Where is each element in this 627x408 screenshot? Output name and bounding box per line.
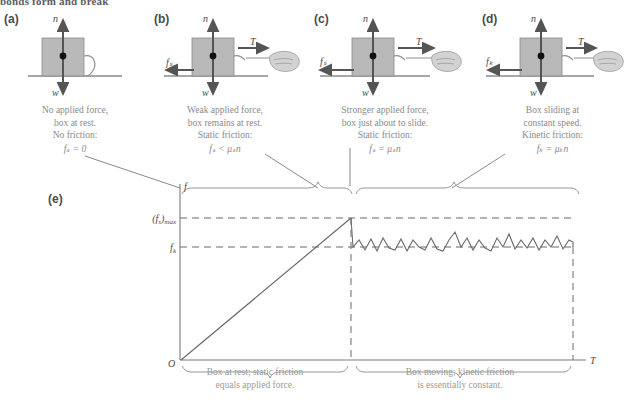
panel-b-caption-line-2: box remains at rest. — [188, 118, 262, 128]
kinetic-friction-curve — [351, 218, 573, 251]
graph-caption-right: Box moving; kinetic friction is essentia… — [345, 366, 575, 391]
top-brace-right — [356, 182, 579, 194]
rope-knot-b — [234, 55, 245, 60]
hand-icon-b — [270, 51, 300, 71]
center-dot-b — [210, 53, 217, 60]
friction-label-b: fₛ — [166, 57, 173, 68]
weight-label-a: w — [52, 87, 59, 98]
normal-label-d: n — [531, 13, 536, 24]
panel-b: (b) n w T fₛ Weak appli — [150, 8, 300, 168]
normal-label-c: n — [363, 13, 368, 24]
panel-a-equation: fₛ = 0 — [0, 143, 150, 156]
panel-d-caption-line-1: Box sliding at — [526, 105, 579, 115]
tension-label-c: T — [416, 36, 423, 47]
normal-label-b: n — [203, 13, 208, 24]
panel-c-label: (c) — [314, 12, 329, 26]
top-running-text: bonds form and break — [0, 0, 230, 7]
tension-label-d: T — [578, 36, 585, 47]
graph-caption-left-line-1: Box at rest; static friction — [207, 367, 304, 377]
rope-knot-d — [562, 55, 573, 60]
y-axis-label: f — [184, 181, 188, 192]
graph-caption-right-line-1: Box moving; kinetic friction — [406, 367, 514, 377]
panel-d-caption: Box sliding at constant speed. Kinetic f… — [478, 104, 627, 155]
rope-loop-a — [84, 56, 95, 76]
panel-a-caption-line-3: No friction: — [53, 130, 98, 140]
panel-a: (a) n w No applied force, box at r — [0, 8, 150, 168]
hand-icon-d — [594, 51, 624, 71]
normal-label-a: n — [53, 13, 58, 24]
y-tick-fk: fk — [170, 242, 177, 255]
panel-b-diagram: n w T fₛ — [150, 8, 310, 103]
panel-a-caption-line-2: box at rest. — [54, 118, 96, 128]
panel-a-label: (a) — [4, 12, 19, 26]
panel-c-caption-line-3: Static friction: — [358, 130, 413, 140]
top-brace-left — [182, 182, 352, 194]
panel-d-label: (d) — [482, 12, 497, 26]
weight-label-b: w — [202, 87, 209, 98]
friction-graph: (e) f T O (fs)max — [0, 168, 627, 408]
tension-label-b: T — [250, 36, 257, 47]
graph-caption-left: Box at rest; static friction equals appl… — [160, 366, 350, 391]
weight-label-d: w — [530, 87, 537, 98]
panel-d-equation: fₖ = μₖn — [478, 143, 627, 156]
friction-figure: bonds form and break (a) n w — [0, 0, 627, 408]
panel-b-label: (b) — [154, 12, 169, 26]
friction-label-c: fₛ — [320, 56, 327, 67]
center-dot-a — [60, 53, 67, 60]
panel-a-caption-line-1: No applied force, — [42, 105, 108, 115]
graph-caption-left-line-2: equals applied force. — [216, 380, 295, 390]
y-tick-fs-max: (fs)max — [152, 213, 177, 226]
panel-c-equation: fₛ = μₛn — [310, 143, 460, 156]
center-dot-d — [538, 53, 545, 60]
panel-c-caption-line-1: Stronger applied force, — [341, 105, 428, 115]
panel-e-label: (e) — [48, 192, 63, 206]
panel-d: (d) n w T fₖ Box sliding at constant spe… — [478, 8, 627, 168]
panel-a-caption: No applied force, box at rest. No fricti… — [0, 104, 150, 155]
panel-b-equation: fₛ < μₛn — [150, 143, 300, 156]
graph-caption-right-line-2: is essentially constant. — [417, 380, 502, 390]
x-axis-label: T — [590, 355, 597, 366]
panel-d-caption-line-3: Kinetic friction: — [522, 130, 583, 140]
panel-b-caption: Weak applied force, box remains at rest.… — [150, 104, 300, 155]
panel-c-caption-line-2: box just about to slide. — [342, 118, 428, 128]
panel-b-caption-line-1: Weak applied force, — [187, 105, 263, 115]
panel-b-caption-line-3: Static friction: — [198, 130, 253, 140]
panel-c-caption: Stronger applied force, box just about t… — [310, 104, 460, 155]
hand-icon-c — [432, 51, 462, 71]
panel-c-diagram: n w T fₛ — [310, 8, 475, 103]
panel-c: (c) n w T fₛ Stronger applied force, box… — [310, 8, 460, 168]
rope-knot-c — [394, 55, 405, 60]
panel-d-caption-line-2: constant speed. — [523, 118, 581, 128]
panel-d-diagram: n w T fₖ — [478, 8, 627, 103]
panel-a-diagram: n w — [0, 8, 150, 103]
friction-label-d: fₖ — [486, 56, 494, 67]
weight-label-c: w — [362, 87, 369, 98]
static-friction-curve — [181, 218, 351, 360]
center-dot-c — [370, 53, 377, 60]
